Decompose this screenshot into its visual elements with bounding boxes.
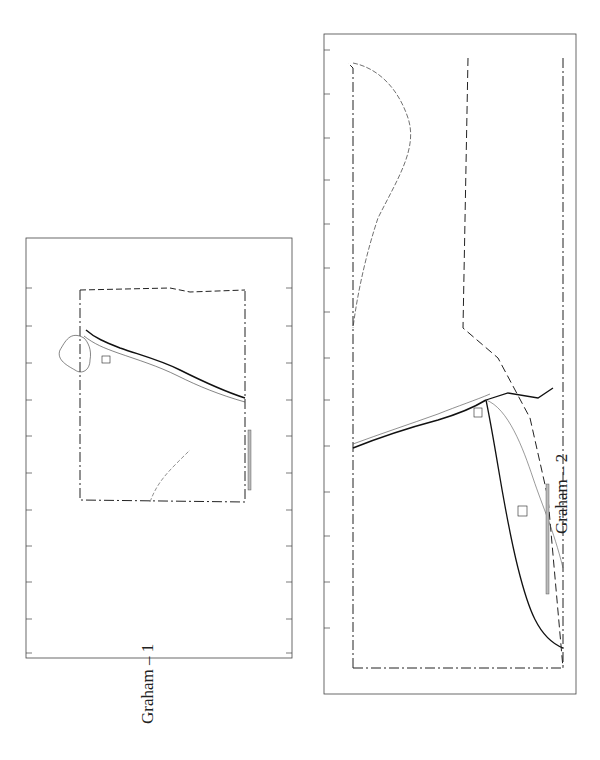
neat-line [26, 238, 292, 658]
row-ticks-left [26, 288, 32, 653]
gila-river-bank [84, 336, 245, 402]
caption-graham-1: Graham – 1 [138, 644, 158, 724]
graham-2-map-drawing [318, 28, 588, 700]
neat-line [324, 34, 576, 694]
san-carlos-reservoir [59, 335, 90, 372]
graham-1-map-drawing [20, 230, 300, 670]
route-70-shield [102, 356, 110, 363]
row-ticks-right [286, 288, 292, 653]
scale-bar [248, 430, 251, 490]
route-666-shield [518, 506, 527, 516]
south-east-boundary [353, 58, 563, 668]
west-boundary [348, 63, 353, 668]
scale-bar [546, 484, 549, 594]
gila-river [353, 394, 490, 444]
map-graham-2 [318, 28, 588, 700]
row-ticks-left [324, 50, 330, 628]
route-70-shield [474, 408, 482, 417]
north-boundary [80, 288, 245, 292]
aravaipa-creek [150, 450, 190, 502]
caption-graham-2: Graham – 2 [552, 454, 572, 534]
black-river [353, 63, 411, 328]
gila-river [86, 330, 245, 398]
map-graham-1 [20, 230, 300, 670]
us-70-highway [353, 400, 486, 448]
county-boundary [80, 290, 245, 502]
